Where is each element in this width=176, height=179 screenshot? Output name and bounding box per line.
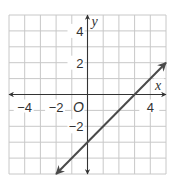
x-tick-label: −4 <box>17 100 32 115</box>
y-tick-label: 4 <box>76 24 83 39</box>
origin-label: O <box>73 99 84 115</box>
y-tick-label: −2 <box>69 119 84 134</box>
y-tick-label: 2 <box>76 56 83 71</box>
coordinate-graph: −4−2442−2Oyx <box>0 0 176 179</box>
tick-labels: −4−2442−2Oyx <box>14 14 164 134</box>
x-tick-label: −2 <box>49 100 64 115</box>
axes <box>9 15 166 174</box>
x-axis-label: x <box>154 78 162 93</box>
y-axis-label: y <box>90 14 99 29</box>
x-tick-label: 4 <box>147 100 154 115</box>
